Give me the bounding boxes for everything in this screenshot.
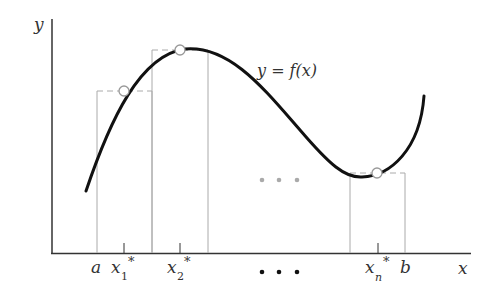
- svg-text:*: *: [128, 254, 135, 269]
- rectangle-2: [152, 50, 208, 253]
- riemann-sum-diagram: y x y = f(x) a b x 1 * x 2 * x n *: [0, 0, 496, 292]
- svg-text:*: *: [184, 254, 191, 269]
- sample-point-1-label: x 1 *: [111, 254, 135, 283]
- sample-point-n-marker: [372, 168, 382, 178]
- svg-text:x: x: [111, 257, 121, 277]
- rectangle-n: [350, 173, 405, 253]
- interval-left-label: a: [91, 257, 101, 277]
- rectangle-1: [97, 91, 152, 253]
- sample-point-1-marker: [119, 86, 129, 96]
- sample-point-2-marker: [175, 45, 185, 55]
- sample-point-2-label: x 2 *: [167, 254, 191, 283]
- svg-text:n: n: [375, 271, 382, 284]
- interval-right-label: b: [400, 257, 411, 277]
- x-axis-label: x: [458, 258, 468, 278]
- svg-text:x: x: [167, 257, 177, 277]
- svg-text:2: 2: [177, 270, 184, 283]
- curve-label: y = f(x): [256, 61, 317, 80]
- svg-text:1: 1: [121, 270, 128, 283]
- sample-point-n-label: x n *: [365, 254, 390, 284]
- svg-text:*: *: [383, 254, 390, 269]
- ellipsis-middle: [260, 178, 300, 183]
- y-axis-label: y: [33, 14, 44, 34]
- ellipsis-axis: [260, 270, 300, 275]
- svg-text:x: x: [365, 257, 375, 277]
